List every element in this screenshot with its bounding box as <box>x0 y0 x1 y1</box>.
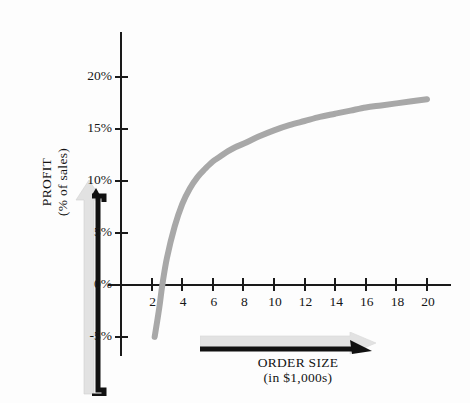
y-axis-tick-label: -5% <box>68 328 112 344</box>
x-axis-tick-mark <box>395 278 397 291</box>
x-axis-tick-label: 18 <box>385 294 409 310</box>
x-axis-tick-mark <box>304 278 306 291</box>
x-axis-tick-mark <box>212 278 214 291</box>
x-axis-tick-label: 10 <box>263 294 287 310</box>
y-axis-tick-label: 5% <box>68 224 112 240</box>
x-axis-tick-label: 12 <box>294 294 318 310</box>
x-axis-tick-mark <box>273 278 275 291</box>
y-axis-tick-label-text: 10% <box>87 172 112 188</box>
x-axis-tick-mark <box>181 278 183 291</box>
y-axis-tick-label: 15% <box>68 120 112 136</box>
y-axis-tick-label-text: 5% <box>94 224 112 240</box>
y-axis-tick-label: 10% <box>68 172 112 188</box>
x-axis-tick-label: 8 <box>232 294 256 310</box>
y-axis-tick-label: 20% <box>68 68 112 84</box>
y-axis-tick-mark <box>115 284 128 286</box>
x-axis-tick-label: 4 <box>171 294 195 310</box>
x-axis-tick-label: 16 <box>355 294 379 310</box>
x-axis-tick-label: 6 <box>202 294 226 310</box>
x-axis-tick-mark <box>242 278 244 291</box>
x-axis-tick-mark <box>426 278 428 291</box>
y-axis-tick-label-text: 15% <box>87 120 112 136</box>
y-axis-tick-label-text: 0% <box>94 276 112 292</box>
y-axis-line <box>120 32 122 356</box>
y-axis-title-label: PROFIT (% of sales) <box>39 97 71 267</box>
profit-vs-order-size-chart: PROFIT (% of sales) 20%15%10%5%0%-5% 246… <box>0 0 470 403</box>
y-axis-tick-mark <box>115 76 128 78</box>
y-axis-tick-label: 0% <box>68 276 112 292</box>
x-axis-tick-label: 14 <box>324 294 348 310</box>
x-axis-title-line2: (in $1,000s) <box>264 370 333 385</box>
y-axis-tick-mark <box>115 336 128 338</box>
x-axis-tick-mark <box>334 278 336 291</box>
y-axis-tick-mark <box>115 128 128 130</box>
y-axis-tick-mark <box>115 180 128 182</box>
y-axis-tick-mark <box>115 232 128 234</box>
x-axis-tick-mark <box>151 278 153 291</box>
y-axis-title-line1: PROFIT <box>39 158 54 206</box>
x-axis-tick-label: 2 <box>141 294 165 310</box>
x-axis-title-label: ORDER SIZE (in $1,000s) <box>232 355 364 385</box>
x-axis-title-line1: ORDER SIZE <box>258 355 339 370</box>
y-axis-tick-label-text: -5% <box>90 328 113 344</box>
y-axis-tick-label-text: 20% <box>87 68 112 84</box>
x-axis-tick-mark <box>365 278 367 291</box>
x-axis-tick-label: 20 <box>416 294 440 310</box>
x-axis-line <box>108 284 451 286</box>
